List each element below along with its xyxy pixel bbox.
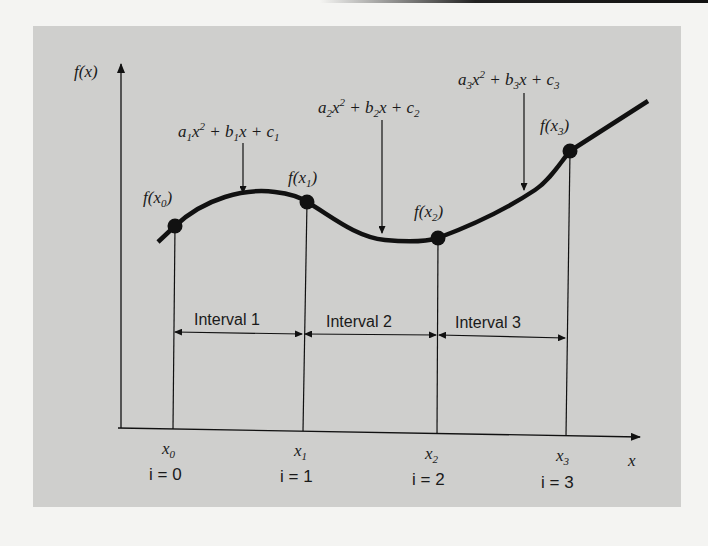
poly-label-3: a3x2 + b3x + c3	[458, 68, 560, 91]
x-tick-3: x3	[556, 446, 569, 467]
interval-1-arrow	[175, 332, 302, 334]
spline-diagram	[0, 0, 708, 546]
knot-point-0	[168, 219, 183, 234]
x-axis	[118, 428, 640, 437]
x-tick-1: x1	[294, 441, 307, 462]
knot-line-1	[303, 202, 307, 431]
point-label-1: f(x1)	[288, 168, 317, 189]
interval-label-1: Interval 1	[194, 311, 260, 329]
knot-point-1	[300, 195, 315, 210]
index-label-3: i = 3	[541, 473, 574, 493]
interval-3-arrow	[439, 335, 565, 338]
index-label-0: i = 0	[149, 465, 182, 485]
interval-label-2: Interval 2	[326, 313, 392, 331]
point-label-3: f(x3)	[540, 116, 569, 137]
interval-label-3: Interval 3	[455, 314, 521, 332]
x-tick-2: x2	[425, 444, 438, 465]
poly-label-2: a2x2 + b2x + c2	[318, 96, 420, 119]
knot-point-3	[563, 144, 578, 159]
x-axis-label: x	[628, 451, 636, 471]
knot-point-2	[431, 231, 446, 246]
x-tick-0: x0	[162, 439, 175, 460]
point-label-2: f(x2)	[414, 202, 443, 223]
knot-line-3	[566, 151, 570, 436]
poly-label-1: a1x2 + b1x + c1	[178, 120, 280, 143]
y-axis-label: f(x)	[74, 62, 98, 82]
knot-line-0	[173, 226, 175, 429]
index-label-2: i = 2	[412, 470, 445, 490]
index-label-1: i = 1	[280, 467, 313, 487]
point-label-0: f(x0)	[143, 188, 172, 209]
knot-line-2	[437, 238, 438, 434]
interval-2-arrow	[305, 334, 436, 335]
